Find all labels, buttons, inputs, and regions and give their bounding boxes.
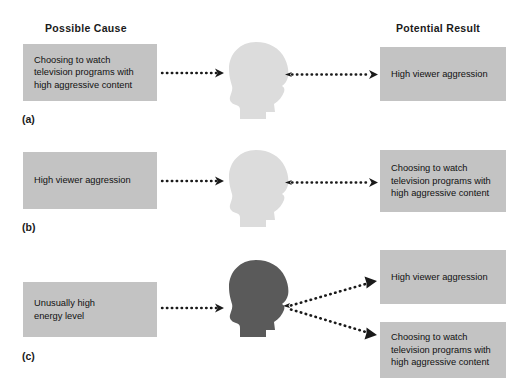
head-profile-silhouette-icon [226,258,296,344]
column-header-potential-result: Potential Result [396,22,480,34]
arrow-b-cause-to-head [162,177,224,186]
result-box-c-top-line1: High viewer aggression [391,271,500,283]
cause-box-a-line3: high aggressive content [34,79,151,91]
cause-box-c-line2: energy level [34,310,151,322]
result-box-a-line1: High viewer aggression [391,68,500,80]
cause-box-b-line1: High viewer aggression [34,174,151,186]
result-box-b: Choosing to watch television programs wi… [380,150,506,212]
result-box-b-line1: Choosing to watch [391,162,500,174]
cause-box-a-line1: Choosing to watch [34,54,151,66]
cause-box-c: Unusually high energy level [23,282,157,337]
arrow-c-cause-to-head [162,304,224,313]
result-box-c-bottom-line3: high aggressive content [391,356,500,368]
column-header-possible-cause: Possible Cause [45,22,127,34]
arrow-a-head-to-result [285,70,378,79]
head-profile-silhouette-icon [226,40,296,126]
arrow-c-head-to-result-bottom [291,310,377,340]
arrow-a-cause-to-head [162,69,224,78]
row-label-c: (c) [22,350,35,362]
head-profile-silhouette-icon [226,148,296,234]
row-label-a: (a) [22,113,35,125]
result-box-c-bottom-line2: television programs with [391,344,500,356]
cause-box-a: Choosing to watch television programs wi… [23,44,157,101]
result-box-a: High viewer aggression [380,47,506,101]
result-box-b-line3: high aggressive content [391,187,500,199]
result-box-c-bottom-line1: Choosing to watch [391,331,500,343]
arrow-c-head-to-result-top [283,277,377,309]
causal-direction-diagram: Possible Cause Potential Result (a) (b) … [0,0,525,392]
result-box-c-bottom: Choosing to watch television programs wi… [380,322,506,378]
row-label-b: (b) [22,221,35,233]
cause-box-b: High viewer aggression [23,152,157,209]
cause-box-c-line1: Unusually high [34,297,151,309]
cause-box-a-line2: television programs with [34,66,151,78]
result-box-c-top: High viewer aggression [380,250,506,304]
arrow-b-head-to-result [285,178,378,187]
result-box-b-line2: television programs with [391,175,500,187]
